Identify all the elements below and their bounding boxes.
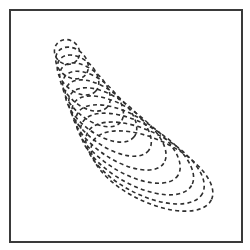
dashed-loop xyxy=(73,105,217,221)
loops-group xyxy=(49,34,225,227)
dashed-loops-figure xyxy=(0,0,250,250)
dashed-loop xyxy=(53,61,134,138)
